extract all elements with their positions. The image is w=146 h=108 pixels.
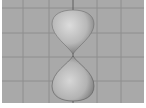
- 3d-viewport[interactable]: [2, 0, 144, 103]
- viewport-canvas[interactable]: [2, 0, 144, 103]
- bottom-lobe: [52, 56, 94, 101]
- top-lobe: [52, 10, 94, 54]
- double-teardrop-object[interactable]: [52, 10, 94, 101]
